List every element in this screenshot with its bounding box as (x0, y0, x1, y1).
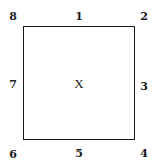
center-label: X (74, 77, 83, 90)
label-bottom: 5 (75, 148, 83, 159)
label-left: 7 (9, 79, 17, 90)
label-right: 3 (140, 81, 148, 92)
label-top-left: 8 (9, 11, 17, 22)
label-top: 1 (75, 11, 83, 22)
label-bottom-left: 6 (9, 149, 17, 160)
label-bottom-right: 4 (140, 148, 148, 159)
label-top-right: 2 (140, 11, 148, 22)
